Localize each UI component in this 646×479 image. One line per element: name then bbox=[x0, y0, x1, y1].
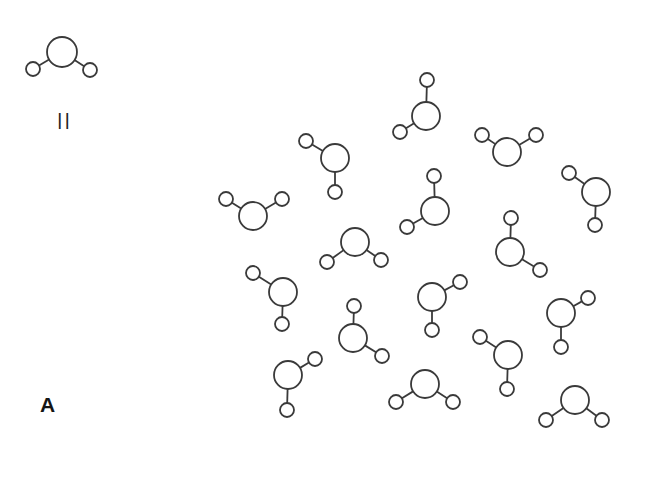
water-molecule bbox=[473, 330, 522, 396]
bond-line bbox=[413, 218, 423, 224]
hydrogen-atom bbox=[374, 253, 388, 267]
water-molecule bbox=[274, 352, 322, 417]
bond-line bbox=[519, 139, 530, 145]
hydrogen-atom bbox=[539, 413, 553, 427]
water-molecule bbox=[339, 299, 389, 363]
hydrogen-atom bbox=[554, 340, 568, 354]
hydrogen-atom bbox=[275, 317, 289, 331]
water-molecule bbox=[26, 37, 97, 77]
reference-water-molecule bbox=[26, 37, 97, 77]
hydrogen-atom bbox=[393, 125, 407, 139]
hydrogen-atom bbox=[595, 413, 609, 427]
hydrogen-atom bbox=[500, 382, 514, 396]
hydrogen-atom bbox=[529, 128, 543, 142]
oxygen-atom bbox=[341, 228, 369, 256]
hydrogen-atom bbox=[453, 275, 467, 289]
bond-line bbox=[39, 59, 50, 65]
bond-line bbox=[552, 408, 564, 416]
panel-label: A bbox=[40, 394, 55, 415]
bond-line bbox=[312, 145, 323, 151]
water-molecule-cluster bbox=[219, 73, 610, 427]
oxygen-atom bbox=[421, 197, 449, 225]
bond-line bbox=[575, 177, 585, 184]
hydrogen-atom bbox=[246, 266, 260, 280]
bond-line bbox=[406, 123, 414, 128]
hydrogen-atom bbox=[588, 218, 602, 232]
oxygen-atom bbox=[561, 386, 589, 414]
bond-line bbox=[367, 250, 376, 256]
water-molecule bbox=[418, 275, 467, 337]
oxygen-atom bbox=[494, 341, 522, 369]
bond-line bbox=[402, 391, 413, 398]
hydrogen-atom bbox=[219, 192, 233, 206]
oxygen-atom bbox=[493, 138, 521, 166]
oxygen-atom bbox=[274, 361, 302, 389]
hydrogen-atom bbox=[473, 330, 487, 344]
bond-line bbox=[488, 139, 496, 144]
hydrogen-atom bbox=[308, 352, 322, 366]
hydrogen-atom bbox=[562, 166, 576, 180]
oxygen-atom bbox=[269, 278, 297, 306]
hydrogen-atom bbox=[504, 211, 518, 225]
bond-line bbox=[586, 408, 596, 416]
hydrogen-atom bbox=[299, 134, 313, 148]
water-molecule bbox=[400, 169, 449, 234]
bond-line bbox=[437, 392, 447, 399]
hydrogen-atom bbox=[446, 395, 460, 409]
bond-line bbox=[300, 363, 309, 368]
bond-line bbox=[232, 203, 241, 209]
hydrogen-atom bbox=[425, 323, 439, 337]
hydrogen-atom bbox=[83, 63, 97, 77]
water-molecule bbox=[389, 370, 460, 409]
oxygen-atom bbox=[239, 202, 267, 230]
bond-line bbox=[333, 250, 344, 258]
oxygen-atom bbox=[582, 178, 610, 206]
water-molecule bbox=[320, 228, 388, 269]
water-molecule bbox=[562, 166, 610, 232]
water-molecule bbox=[393, 73, 440, 139]
oxygen-atom bbox=[412, 102, 440, 130]
hydrogen-atom bbox=[26, 62, 40, 76]
oxygen-atom bbox=[496, 238, 524, 266]
hydrogen-atom bbox=[533, 263, 547, 277]
oxygen-atom bbox=[339, 324, 367, 352]
oxygen-atom bbox=[47, 37, 77, 67]
hydrogen-atom bbox=[347, 299, 361, 313]
water-molecule bbox=[475, 128, 543, 166]
oxygen-atom bbox=[411, 370, 439, 398]
water-molecule bbox=[547, 291, 595, 354]
water-molecule bbox=[539, 386, 609, 427]
water-molecule bbox=[496, 211, 547, 277]
hydrogen-atom bbox=[400, 220, 414, 234]
hydrogen-atom bbox=[375, 349, 389, 363]
bond-line bbox=[486, 341, 496, 348]
hydrogen-atom bbox=[389, 395, 403, 409]
molecule-diagram bbox=[0, 0, 646, 479]
equivalence-symbol: || bbox=[57, 113, 72, 128]
hydrogen-atom bbox=[581, 291, 595, 305]
bond-line bbox=[573, 301, 582, 306]
oxygen-atom bbox=[547, 299, 575, 327]
bond-line bbox=[265, 203, 276, 209]
hydrogen-atom bbox=[280, 403, 294, 417]
bond-line bbox=[522, 259, 534, 266]
bond-line bbox=[365, 345, 376, 352]
bond-line bbox=[259, 277, 271, 285]
water-molecule bbox=[219, 192, 289, 230]
water-molecule bbox=[299, 134, 349, 199]
bond-line bbox=[444, 285, 453, 290]
oxygen-atom bbox=[321, 144, 349, 172]
hydrogen-atom bbox=[320, 255, 334, 269]
hydrogen-atom bbox=[475, 128, 489, 142]
hydrogen-atom bbox=[275, 192, 289, 206]
hydrogen-atom bbox=[427, 169, 441, 183]
hydrogen-atom bbox=[420, 73, 434, 87]
oxygen-atom bbox=[418, 283, 446, 311]
water-molecule bbox=[246, 266, 297, 331]
hydrogen-atom bbox=[328, 185, 342, 199]
